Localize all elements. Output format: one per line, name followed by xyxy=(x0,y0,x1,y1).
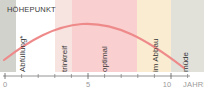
phase-label-abfuellung: Abfüllung* xyxy=(18,36,27,72)
x-tick-5: 5 xyxy=(86,80,90,89)
phase-label-muede: müde xyxy=(181,52,190,72)
wine-maturity-chart: HÖHEPUNKT Abfüllung* trinkreif optimal i… xyxy=(0,0,204,92)
phase-label-trinkreif: trinkreif xyxy=(60,46,69,72)
x-tick-10: 10 xyxy=(163,80,171,89)
phase-label-im-abbau: im Abbau xyxy=(151,39,160,72)
chart-title: HÖHEPUNKT xyxy=(7,5,56,14)
phase-label-optimal: optimal xyxy=(100,46,109,72)
x-tick-0: 0 xyxy=(3,80,7,89)
x-axis-unit: JAHRE xyxy=(183,80,204,89)
